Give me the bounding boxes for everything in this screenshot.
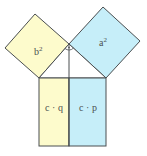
label-cq: c · q [45, 102, 63, 113]
pythagoras-diagram: b2 a2 c · q c · p [0, 0, 147, 156]
label-cp: c · p [79, 102, 97, 113]
right-angle-dot [68, 47, 70, 49]
